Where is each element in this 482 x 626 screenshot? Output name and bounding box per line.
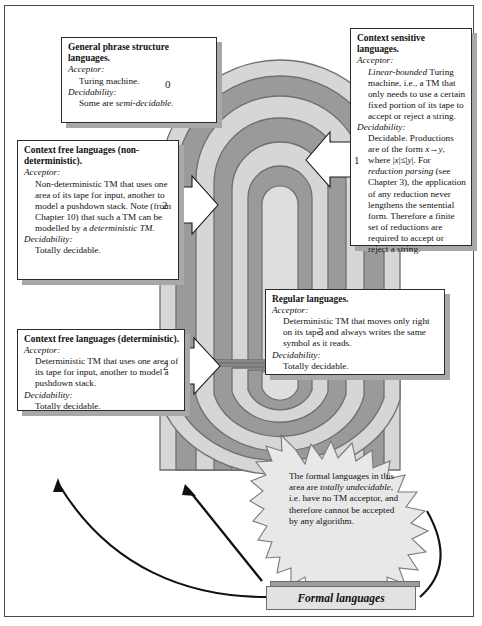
level-number-1: 1 [354, 154, 360, 166]
acceptor-label: Acceptor: [24, 167, 173, 178]
acceptor-text: Deterministic TM that uses one area of i… [24, 356, 179, 389]
box-general-phrase-structure[interactable]: General phrase structure languages. Acce… [61, 37, 217, 123]
decidability-text: Decidable. Productions are of the form x… [357, 133, 466, 255]
diagonal-arrowhead [182, 484, 196, 496]
level-number-3: 3 [318, 325, 324, 337]
acceptor-label: Acceptor: [24, 345, 179, 356]
decidability-label: Decidability: [357, 122, 466, 133]
formal-languages-diagonal-arrow [188, 489, 262, 581]
acceptor-text: Non-deterministic TM that uses one area … [24, 179, 173, 234]
acceptor-label: Acceptor: [272, 305, 439, 316]
acceptor-text: Turing machine. [68, 76, 211, 87]
decidability-label: Decidability: [68, 87, 211, 98]
decidability-text: Totally decidable. [24, 401, 179, 412]
acceptor-label: Acceptor: [68, 64, 211, 75]
undecidable-burst-text: The formal languages in this area are to… [289, 471, 399, 527]
acceptor-text: Deterministic TM that moves only right o… [272, 316, 439, 349]
box-title: Context free languages (non-deterministi… [24, 145, 173, 167]
decidability-emphasis: semi-decidable. [116, 98, 174, 108]
box-context-free-deterministic[interactable]: Context free languages (deterministic). … [17, 329, 185, 411]
box-title: General phrase structure languages. [68, 42, 211, 64]
acceptor-emphasis: deterministic TM. [89, 223, 154, 233]
box-title: Context sensitive languages. [357, 33, 466, 55]
box-context-free-nondeterministic[interactable]: Context free languages (non-deterministi… [17, 140, 179, 280]
level-number-2-deterministic: 2 [163, 360, 169, 372]
decidability-label: Decidability: [272, 350, 439, 361]
box-context-sensitive[interactable]: Context sensitive languages. Acceptor: L… [350, 28, 472, 246]
burst-emphasis: totally undecidable [320, 482, 391, 492]
box-title: Context free languages (deterministic). [24, 334, 179, 345]
formal-languages-bar[interactable]: Formal languages [266, 586, 416, 610]
decidability-text: Totally decidable. [272, 361, 439, 372]
acceptor-emphasis: Linear-bounded [368, 67, 427, 77]
level-number-0: 0 [165, 78, 171, 90]
box-title: Regular languages. [272, 294, 439, 305]
box-regular-languages[interactable]: Regular languages. Acceptor: Determinist… [265, 289, 445, 375]
decidability-label: Decidability: [24, 234, 173, 245]
left-curve-arrowhead [53, 478, 63, 492]
acceptor-label: Acceptor: [357, 55, 466, 66]
decidability-text: Some are semi-decidable. [68, 98, 211, 109]
diagram-page: General phrase structure languages. Acce… [0, 0, 482, 626]
formal-languages-label: Formal languages [297, 592, 384, 604]
acceptor-text: Linear-bounded Turing machine, i.e., a T… [357, 67, 466, 122]
level-number-2-nondeterministic: 2 [162, 199, 168, 211]
formal-languages-left-curve [58, 483, 266, 597]
decidability-label: Decidability: [24, 390, 179, 401]
formal-languages-right-curve [420, 511, 441, 597]
decidability-text: Totally decidable. [24, 245, 173, 256]
